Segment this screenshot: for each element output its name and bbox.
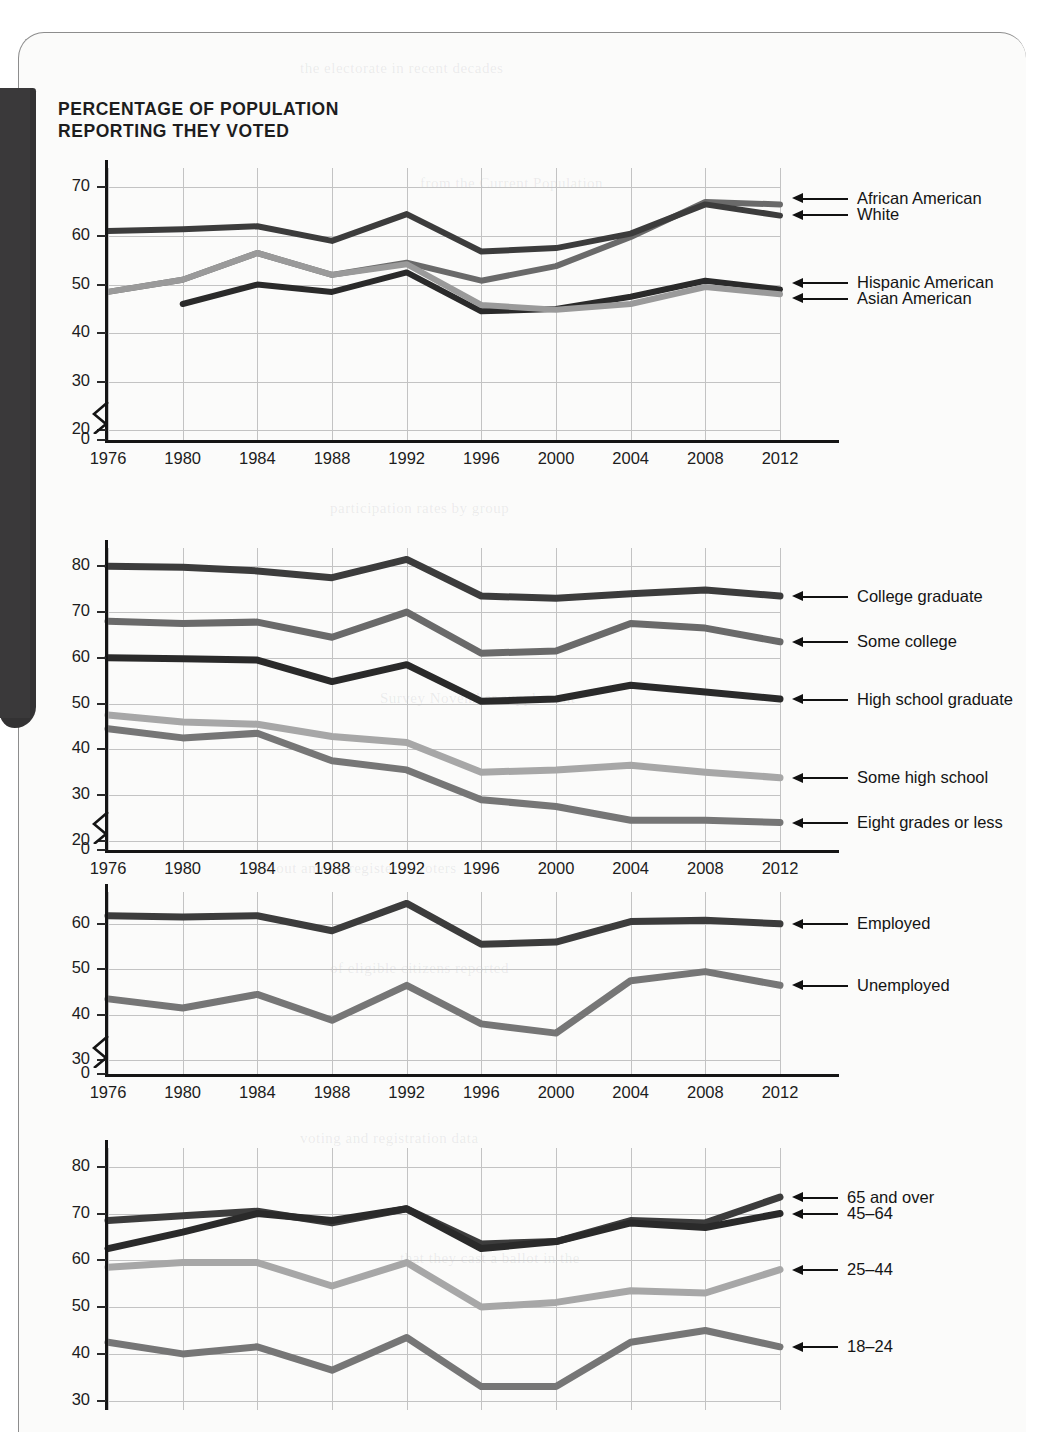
series-line-some-high-school [108, 715, 780, 778]
y-tick-label: 50 [42, 958, 90, 977]
x-tick-label: 1996 [441, 859, 521, 878]
series-label: White [848, 205, 899, 224]
series-label: High school graduate [848, 690, 1013, 709]
arrow-left-icon [792, 192, 848, 204]
x-tick-label: 2012 [740, 859, 820, 878]
series-callout-45-64: 45–64 [792, 1204, 893, 1224]
axis-break-symbol [92, 1034, 122, 1068]
series-layer [108, 548, 780, 850]
series-line-asian-american [108, 253, 780, 310]
y-tick-mark [97, 794, 106, 796]
series-line-18-24 [108, 1331, 780, 1387]
gridline-vertical [780, 1148, 781, 1410]
y-tick-mark [97, 748, 106, 750]
arrow-left-icon [792, 1341, 838, 1353]
y-tick-label: 20 [42, 830, 90, 849]
x-tick-label: 2000 [516, 449, 596, 468]
y-tick-label: 70 [42, 176, 90, 195]
y-axis [105, 540, 108, 850]
plot-area [108, 168, 780, 440]
series-label: Asian American [848, 289, 972, 308]
series-callout-asian-american: Asian American [792, 288, 972, 308]
y-tick-mark [97, 284, 106, 286]
y-tick-mark [97, 186, 106, 188]
x-tick-label: 2000 [516, 1083, 596, 1102]
y-tick-label: 70 [42, 1203, 90, 1222]
series-layer [108, 892, 780, 1074]
arrow-left-icon [792, 1208, 838, 1220]
x-tick-label: 2004 [591, 449, 671, 468]
y-tick-mark [97, 968, 106, 970]
y-tick-label: 30 [42, 784, 90, 803]
arrow-left-icon [792, 979, 848, 991]
y-tick-label: 60 [42, 225, 90, 244]
arrow-left-icon [792, 292, 848, 304]
series-label: 25–44 [838, 1260, 893, 1279]
y-axis [105, 1140, 108, 1410]
y-tick-label: 30 [42, 1049, 90, 1068]
series-layer [108, 168, 780, 440]
x-tick-label: 1976 [68, 859, 148, 878]
y-tick-mark [97, 235, 106, 237]
y-tick-label: 60 [42, 1249, 90, 1268]
arrow-left-icon [792, 636, 848, 648]
series-callout-eight-grades-or-less: Eight grades or less [792, 813, 1003, 833]
arrow-left-icon [792, 918, 848, 930]
x-tick-label: 1980 [143, 449, 223, 468]
series-line-65-and-over [108, 1197, 780, 1244]
x-tick-label: 1996 [441, 449, 521, 468]
series-label: College graduate [848, 587, 983, 606]
series-label: Unemployed [848, 976, 950, 995]
arrow-left-icon [792, 590, 848, 602]
arrow-left-icon [792, 772, 848, 784]
y-tick-mark [97, 1353, 106, 1355]
arrow-left-icon [792, 277, 848, 289]
y-tick-label: 40 [42, 1004, 90, 1023]
y-tick-label: 50 [42, 693, 90, 712]
plot-area [108, 548, 780, 850]
y-tick-label: 20 [42, 419, 90, 438]
y-tick-mark [97, 703, 106, 705]
x-tick-label: 1980 [143, 859, 223, 878]
y-axis [105, 160, 108, 440]
x-tick-label: 1988 [292, 859, 372, 878]
x-tick-label: 2004 [591, 859, 671, 878]
y-tick-label: 70 [42, 601, 90, 620]
page-title: PERCENTAGE OF POPULATION REPORTING THEY … [58, 98, 339, 142]
y-tick-mark [97, 1400, 106, 1402]
x-tick-label: 2012 [740, 1083, 820, 1102]
y-tick-mark [97, 657, 106, 659]
x-tick-label: 1976 [68, 1083, 148, 1102]
x-tick-label: 2008 [665, 449, 745, 468]
x-tick-label: 1984 [217, 449, 297, 468]
series-line-25-44 [108, 1263, 780, 1308]
series-callout-some-college: Some college [792, 632, 957, 652]
series-line-white [108, 204, 780, 251]
x-tick-label: 1988 [292, 449, 372, 468]
series-line-employed [108, 903, 780, 944]
y-tick-label: 50 [42, 274, 90, 293]
series-line-college-graduate [108, 559, 780, 598]
y-tick-mark [97, 332, 106, 334]
x-tick-label: 1980 [143, 1083, 223, 1102]
y-tick-mark [97, 1306, 106, 1308]
series-callout-college-graduate: College graduate [792, 586, 983, 606]
series-callout-18-24: 18–24 [792, 1337, 893, 1357]
arrow-left-icon [792, 1264, 838, 1276]
x-axis [105, 850, 839, 853]
y-tick-label: 80 [42, 1156, 90, 1175]
x-tick-label: 2004 [591, 1083, 671, 1102]
x-tick-label: 1984 [217, 859, 297, 878]
x-tick-label: 1996 [441, 1083, 521, 1102]
x-axis [105, 1074, 839, 1077]
x-tick-label: 2008 [665, 859, 745, 878]
y-tick-mark [97, 1014, 106, 1016]
series-callout-unemployed: Unemployed [792, 975, 950, 995]
y-tick-label: 30 [42, 1390, 90, 1409]
y-tick-label: 80 [42, 555, 90, 574]
series-line-eight-grades-or-less [108, 729, 780, 823]
y-tick-label: 40 [42, 322, 90, 341]
series-label: Employed [848, 914, 930, 933]
y-tick-mark [97, 1213, 106, 1215]
arrow-left-icon [792, 693, 848, 705]
